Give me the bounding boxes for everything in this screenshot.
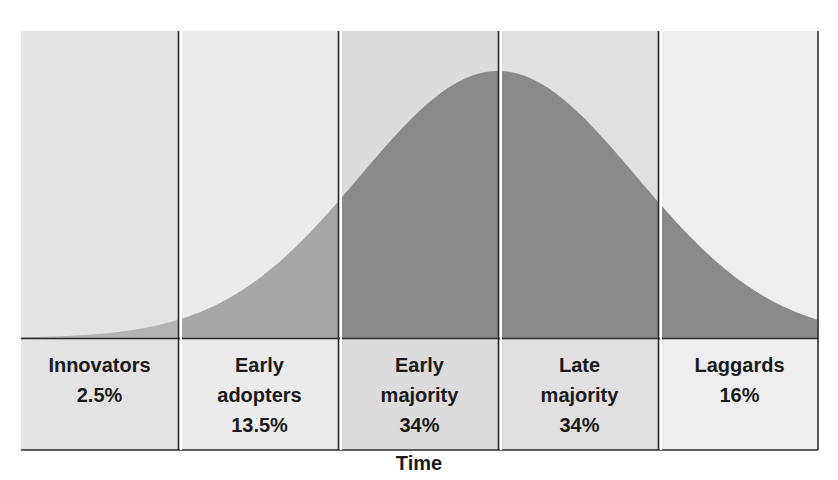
label-innovators: Innovators 2.5%: [21, 340, 178, 450]
label-late-majority: Late majority 34%: [501, 340, 658, 450]
laggards-percent: 16%: [661, 380, 818, 410]
early-majority-name-2: majority: [341, 380, 498, 410]
x-axis-label: Time: [0, 452, 838, 475]
late-majority-percent: 34%: [501, 410, 658, 440]
late-majority-name-1: Late: [501, 350, 658, 380]
label-early-adopters: Early adopters 13.5%: [181, 340, 338, 450]
label-laggards: Laggards 16%: [661, 340, 818, 450]
innovators-percent: 2.5%: [21, 380, 178, 410]
early-majority-name-1: Early: [341, 350, 498, 380]
innovators-name: Innovators: [21, 350, 178, 380]
laggards-name: Laggards: [661, 350, 818, 380]
early-adopters-name-1: Early: [181, 350, 338, 380]
late-majority-name-2: majority: [501, 380, 658, 410]
early-majority-percent: 34%: [341, 410, 498, 440]
label-early-majority: Early majority 34%: [341, 340, 498, 450]
early-adopters-name-2: adopters: [181, 380, 338, 410]
early-adopters-percent: 13.5%: [181, 410, 338, 440]
